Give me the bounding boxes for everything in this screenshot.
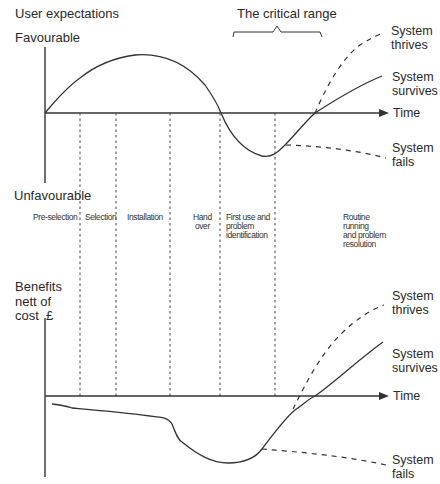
phase-first-use: First use and problem identification bbox=[226, 213, 270, 240]
top-thrives-line bbox=[315, 33, 383, 113]
bottom-time-label: Time bbox=[393, 389, 420, 403]
bottom-chart bbox=[45, 305, 389, 477]
phase-installation: Installation bbox=[127, 213, 163, 222]
top-chart bbox=[45, 26, 389, 183]
bottom-time-arrow-icon bbox=[379, 392, 389, 400]
top-fails-label: System fails bbox=[392, 141, 434, 170]
top-survives-label: System survives bbox=[392, 70, 438, 99]
top-chart-title: User expectations bbox=[15, 7, 119, 22]
top-fails-line bbox=[286, 145, 386, 158]
phase-routine-running: Routine running and problem resolution bbox=[343, 213, 386, 249]
phase-selection: Selection bbox=[85, 213, 116, 222]
diagram-canvas: User expectations Favourable Unfavourabl… bbox=[0, 0, 440, 484]
bottom-thrives-label: System thrives bbox=[392, 289, 434, 318]
bottom-thrives-line bbox=[293, 305, 384, 409]
bottom-fails-label: System fails bbox=[392, 453, 434, 482]
top-expectation-curve bbox=[45, 55, 382, 157]
favourable-label: Favourable bbox=[15, 31, 80, 46]
unfavourable-label: Unfavourable bbox=[14, 189, 91, 204]
phase-dividers bbox=[80, 113, 275, 396]
top-time-label: Time bbox=[393, 106, 420, 120]
top-time-arrow-icon bbox=[379, 109, 389, 117]
critical-range-label: The critical range bbox=[237, 7, 337, 22]
critical-range-brace bbox=[233, 26, 322, 37]
top-thrives-label: System thrives bbox=[391, 24, 433, 53]
bottom-survives-label: System survives bbox=[392, 347, 438, 376]
bottom-benefit-curve bbox=[52, 342, 383, 463]
phase-preselection: Pre-selection bbox=[33, 213, 77, 222]
bottom-chart-title: Benefits nett of cost £ bbox=[15, 280, 62, 324]
bottom-fails-line bbox=[262, 449, 386, 465]
phase-handover: Hand over bbox=[193, 213, 212, 231]
